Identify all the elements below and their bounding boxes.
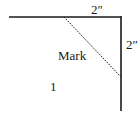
right-dimension-label: 2″ bbox=[126, 38, 138, 51]
diagonal-mark-line bbox=[64, 17, 121, 77]
region-number-label: 1 bbox=[50, 80, 57, 93]
top-dimension-label: 2″ bbox=[91, 3, 103, 16]
mark-label: Mark bbox=[58, 49, 86, 62]
corner-fold-diagram: 2″ 2″ Mark 1 bbox=[0, 0, 140, 114]
